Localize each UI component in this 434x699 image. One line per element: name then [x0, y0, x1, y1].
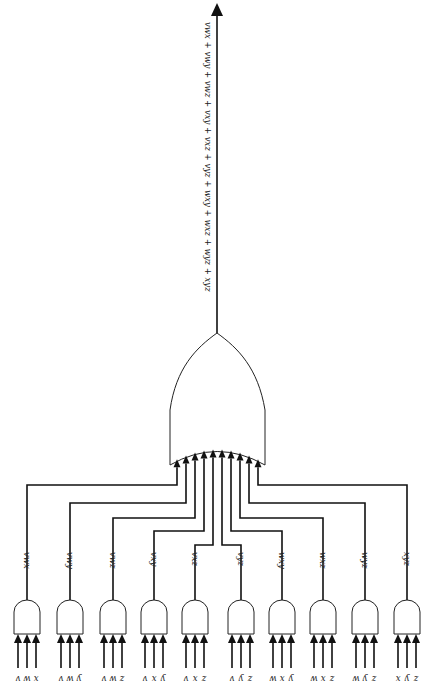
input-label-v: v — [101, 674, 106, 684]
output-expression: vwx + vwy + vwz + vxy + vxz + vyz + wxy … — [203, 22, 213, 292]
term-label: wyz — [360, 552, 370, 569]
input-label-x: x — [320, 674, 325, 684]
input-label-z: z — [201, 674, 207, 684]
input-label-z: z — [247, 674, 253, 684]
input-label-y: y — [238, 674, 244, 684]
gate-to-or-wires — [27, 450, 407, 600]
input-label-v: v — [58, 674, 63, 684]
input-label-y: y — [404, 674, 410, 684]
input-label-y: y — [76, 674, 82, 684]
input-label-w: w — [269, 674, 277, 684]
input-label-z: z — [413, 674, 419, 684]
term-label: vwx — [22, 552, 32, 569]
input-label-x: x — [395, 674, 400, 684]
input-label-w: w — [66, 674, 74, 684]
term-label: wxz — [318, 552, 328, 569]
input-label-y: y — [362, 674, 368, 684]
term-label: vwz — [108, 552, 118, 569]
input-label-z: z — [371, 674, 377, 684]
input-label-v: v — [142, 674, 147, 684]
term-label: vxz — [190, 552, 200, 567]
input-label-w: w — [109, 674, 117, 684]
and-gates: vwxvwxvwyvwyvwzvwzvxyvxyvxzvxzvyzvyzwxyw… — [14, 552, 420, 684]
input-label-w: w — [352, 674, 360, 684]
input-label-v: v — [15, 674, 20, 684]
input-label-x: x — [33, 674, 38, 684]
input-label-z: z — [119, 674, 125, 684]
input-label-v: v — [229, 674, 234, 684]
input-label-y: y — [288, 674, 294, 684]
input-label-v: v — [183, 674, 188, 684]
term-label: xyz — [402, 552, 412, 567]
term-label: wxy — [277, 552, 287, 569]
or-gate — [170, 333, 265, 465]
input-label-x: x — [279, 674, 284, 684]
wire-xyz — [258, 467, 407, 600]
output-arrow-icon — [211, 3, 223, 16]
input-label-z: z — [329, 674, 335, 684]
term-label: vyz — [236, 552, 246, 567]
term-label: vwy — [65, 552, 75, 569]
input-label-x: x — [192, 674, 197, 684]
input-label-w: w — [23, 674, 31, 684]
term-label: vxy — [149, 552, 159, 567]
input-label-y: y — [160, 674, 166, 684]
input-label-x: x — [151, 674, 156, 684]
logic-circuit-diagram: vwx + vwy + vwz + vxy + vxz + vyz + wxy … — [0, 0, 434, 699]
wire-vxy — [154, 459, 204, 600]
input-label-w: w — [310, 674, 318, 684]
wire-wxy — [231, 459, 282, 600]
